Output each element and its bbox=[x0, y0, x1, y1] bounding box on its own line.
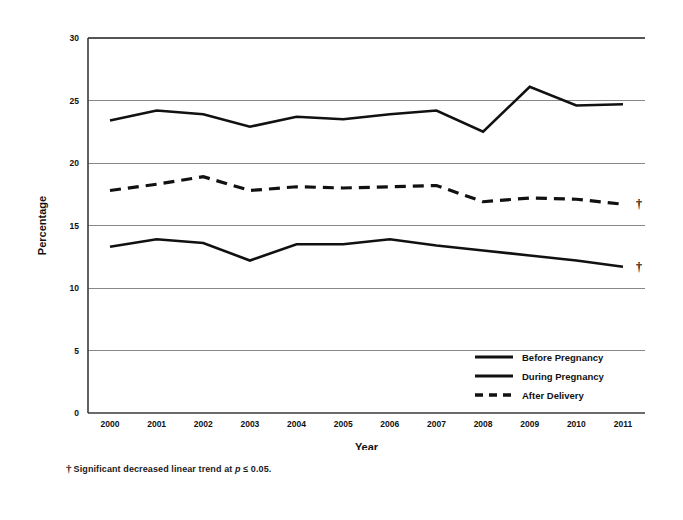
footnote-text-after: ≤ 0.05. bbox=[241, 464, 272, 474]
figure-footnote: †Significant decreased linear trend at p… bbox=[66, 462, 271, 474]
x-axis-title: Year bbox=[355, 441, 379, 450]
y-axis-title: Percentage bbox=[36, 196, 48, 255]
x-tick-label-2003: 2003 bbox=[240, 419, 259, 429]
y-tick-label-10: 10 bbox=[70, 283, 80, 293]
y-tick-label-30: 30 bbox=[70, 33, 80, 43]
dagger-icon: † bbox=[66, 462, 72, 474]
x-tick-label-2011: 2011 bbox=[614, 419, 633, 429]
dagger-marker-before-pregnancy: † bbox=[636, 260, 642, 274]
legend-label-before-pregnancy: Before Pregnancy bbox=[522, 352, 604, 363]
legend-label-during-pregnancy: During Pregnancy bbox=[522, 371, 605, 382]
legend-label-after-delivery: After Delivery bbox=[522, 390, 584, 401]
x-tick-label-2002: 2002 bbox=[194, 419, 213, 429]
figure-container: 0510152025302000200120022003200420052006… bbox=[0, 0, 683, 520]
x-tick-label-2007: 2007 bbox=[427, 419, 446, 429]
line-chart: 0510152025302000200120022003200420052006… bbox=[0, 0, 683, 450]
series-line-during-pregnancy bbox=[110, 87, 623, 132]
footnote-text-before: Significant decreased linear trend at bbox=[74, 464, 235, 474]
x-tick-label-2001: 2001 bbox=[147, 419, 166, 429]
x-tick-label-2005: 2005 bbox=[334, 419, 353, 429]
y-tick-label-0: 0 bbox=[74, 408, 79, 418]
x-tick-label-2000: 2000 bbox=[101, 419, 120, 429]
x-tick-label-2004: 2004 bbox=[287, 419, 306, 429]
y-tick-label-20: 20 bbox=[70, 158, 80, 168]
y-tick-label-5: 5 bbox=[74, 346, 79, 356]
x-tick-label-2010: 2010 bbox=[567, 419, 586, 429]
y-tick-label-15: 15 bbox=[70, 221, 80, 231]
series-line-before-pregnancy bbox=[110, 239, 623, 267]
x-tick-label-2008: 2008 bbox=[474, 419, 493, 429]
dagger-marker-after-delivery: † bbox=[636, 197, 642, 211]
x-tick-label-2006: 2006 bbox=[380, 419, 399, 429]
y-tick-label-25: 25 bbox=[70, 96, 80, 106]
series-line-after-delivery bbox=[110, 177, 623, 205]
x-tick-label-2009: 2009 bbox=[520, 419, 539, 429]
